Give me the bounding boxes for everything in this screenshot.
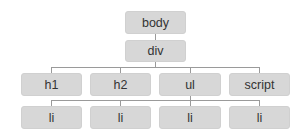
node-li-2: li <box>90 106 151 129</box>
connector-level2-horizontal <box>51 67 260 68</box>
node-ul: ul <box>159 73 221 96</box>
connector-level3-horizontal <box>51 100 260 101</box>
node-li-1: li <box>21 106 82 129</box>
node-h1: h1 <box>21 73 82 96</box>
node-h2: h2 <box>90 73 151 96</box>
node-body: body <box>125 11 186 34</box>
node-div: div <box>125 40 186 62</box>
node-li-3: li <box>159 106 221 129</box>
dom-tree-diagram: body div h1 h2 ul script li li li li <box>0 0 307 140</box>
node-script: script <box>229 73 290 96</box>
node-li-4: li <box>229 106 290 129</box>
